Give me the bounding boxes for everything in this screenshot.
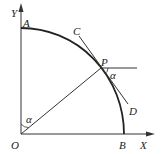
label-p: P (100, 56, 108, 68)
radius-op (21, 68, 101, 134)
label-o: O (11, 139, 19, 151)
label-alpha-origin: α (26, 113, 32, 125)
angle-arc-p (105, 68, 108, 74)
arc-ab (21, 28, 124, 134)
label-a: A (22, 17, 30, 29)
label-d: D (128, 105, 137, 117)
tangent-cd (79, 36, 128, 104)
label-b: B (119, 139, 126, 151)
x-axis-arrow-icon (146, 132, 155, 137)
diagram: Y X O A B C D P α α (0, 0, 161, 154)
label-y: Y (11, 7, 19, 19)
label-c: C (73, 25, 81, 37)
y-axis-arrow-icon (19, 3, 24, 12)
label-alpha-p: α (110, 69, 116, 81)
geometry-figure: Y X O A B C D P α α (0, 0, 161, 154)
label-x: X (139, 139, 148, 151)
